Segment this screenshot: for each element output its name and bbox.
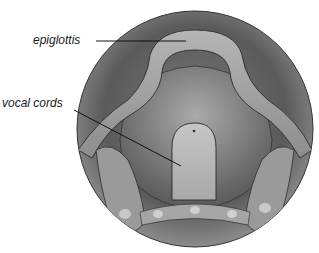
vocal-cords-label: vocal cords — [2, 97, 63, 109]
vocal-cords-shape — [172, 123, 216, 200]
epiglottis-label: epiglottis — [33, 34, 80, 46]
